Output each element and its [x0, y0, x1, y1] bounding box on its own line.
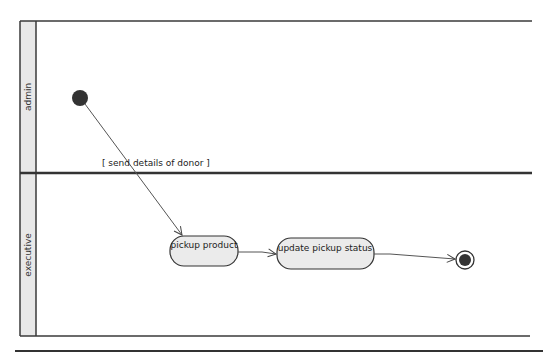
guard-label: [ send details of donor ]: [102, 158, 210, 168]
action-pickup-product[interactable]: pickup product: [170, 236, 238, 266]
activity-diagram: admin executive [ send details of donor …: [0, 0, 551, 357]
lane-label-admin: admin: [23, 83, 33, 111]
initial-node[interactable]: [72, 90, 88, 106]
swimlane-frame: [15, 21, 543, 351]
lane-header-column: [20, 21, 36, 336]
edge-update-to-final: [374, 254, 455, 259]
action-update-pickup-status[interactable]: update pickup status: [277, 238, 374, 269]
action-label: update pickup status: [278, 243, 373, 253]
edge-pickup-to-update: [238, 252, 276, 254]
lane-label-executive: executive: [23, 233, 33, 277]
action-label: pickup product: [171, 240, 238, 250]
final-node[interactable]: [456, 251, 474, 269]
edge-initial-to-pickup: [85, 104, 182, 235]
